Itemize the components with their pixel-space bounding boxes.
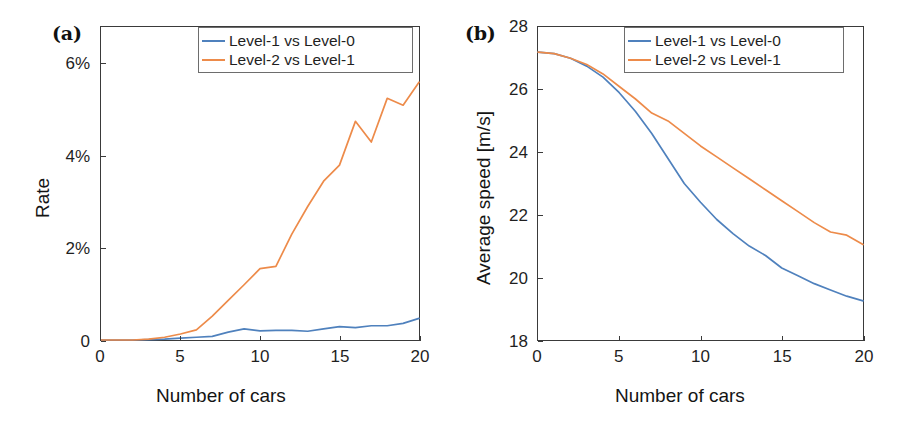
panel-b-plot-area — [537, 26, 864, 341]
y-tick-label: 22 — [509, 207, 528, 224]
panel-a-series-canvas — [101, 27, 419, 340]
x-tick-label: 5 — [175, 348, 184, 365]
y-tick-mark — [101, 341, 106, 342]
legend-entry-1[interactable]: Level-1 vs Level-0 — [628, 31, 838, 50]
x-tick-label: 10 — [691, 348, 710, 365]
legend-entry-1[interactable]: Level-1 vs Level-0 — [202, 31, 407, 50]
y-tick-label: 26 — [509, 81, 528, 98]
panel-b-legend[interactable]: Level-1 vs Level-0Level-2 vs Level-1 — [624, 27, 844, 73]
x-tick-mark — [100, 336, 101, 341]
x-tick-label: 20 — [855, 348, 874, 365]
y-tick-mark — [538, 215, 543, 216]
x-tick-label: 10 — [251, 348, 270, 365]
panel-a-y-axis-title: Rate — [33, 178, 52, 218]
panel-b-y-axis-title: Average speed [m/s] — [474, 111, 493, 285]
y-tick-mark — [538, 89, 543, 90]
legend-entry-2[interactable]: Level-2 vs Level-1 — [202, 50, 407, 69]
x-tick-mark — [864, 336, 865, 341]
x-tick-mark — [619, 336, 620, 341]
y-tick-label: 20 — [509, 270, 528, 287]
series-line-2 — [538, 52, 863, 244]
series-line-2 — [101, 82, 419, 340]
panel-b-tag: (b) — [465, 22, 496, 44]
x-tick-mark — [782, 336, 783, 341]
series-line-1 — [538, 52, 863, 301]
x-tick-label: 20 — [411, 348, 430, 365]
y-tick-label: 6% — [65, 55, 90, 72]
y-tick-mark — [538, 278, 543, 279]
panel-a-legend[interactable]: Level-1 vs Level-0Level-2 vs Level-1 — [198, 27, 413, 73]
legend-line-swatch-icon — [628, 40, 651, 42]
y-tick-label: 18 — [509, 333, 528, 350]
legend-line-swatch-icon — [202, 59, 225, 61]
panel-a-x-axis-title: Number of cars — [156, 386, 286, 405]
y-tick-label: 2% — [65, 240, 90, 257]
legend-entry-label: Level-2 vs Level-1 — [229, 52, 355, 68]
panel-a-tag: (a) — [52, 22, 82, 44]
panel-b-x-axis-title: Number of cars — [615, 386, 745, 405]
legend-entry-2[interactable]: Level-2 vs Level-1 — [628, 50, 838, 69]
legend-line-swatch-icon — [202, 40, 225, 42]
y-tick-mark — [538, 26, 543, 27]
legend-entry-label: Level-2 vs Level-1 — [655, 52, 781, 68]
y-tick-label: 4% — [65, 147, 90, 164]
panel-b-series-canvas — [538, 27, 863, 340]
y-tick-mark — [101, 248, 106, 249]
y-tick-mark — [538, 152, 543, 153]
y-tick-mark — [101, 156, 106, 157]
legend-entry-label: Level-1 vs Level-0 — [229, 33, 355, 49]
y-tick-mark — [101, 63, 106, 64]
panel-b: (b) 18202224262805101520 Average speed [… — [452, 0, 904, 424]
y-tick-label: 0 — [81, 333, 90, 350]
panel-a-plot-area — [100, 26, 420, 341]
x-tick-label: 0 — [532, 348, 541, 365]
legend-entry-label: Level-1 vs Level-0 — [655, 33, 781, 49]
legend-line-swatch-icon — [628, 59, 651, 61]
x-tick-label: 15 — [773, 348, 792, 365]
panel-a: (a) 02%4%6%05101520 Rate Number of cars … — [0, 0, 452, 424]
x-tick-mark — [260, 336, 261, 341]
figure-container: (a) 02%4%6%05101520 Rate Number of cars … — [0, 0, 904, 424]
y-tick-mark — [538, 341, 543, 342]
x-tick-mark — [537, 336, 538, 341]
x-tick-mark — [420, 336, 421, 341]
x-tick-label: 15 — [331, 348, 350, 365]
x-tick-label: 0 — [95, 348, 104, 365]
y-tick-label: 24 — [509, 144, 528, 161]
y-tick-label: 28 — [509, 18, 528, 35]
x-tick-label: 5 — [614, 348, 623, 365]
x-tick-mark — [701, 336, 702, 341]
x-tick-mark — [340, 336, 341, 341]
x-tick-mark — [180, 336, 181, 341]
